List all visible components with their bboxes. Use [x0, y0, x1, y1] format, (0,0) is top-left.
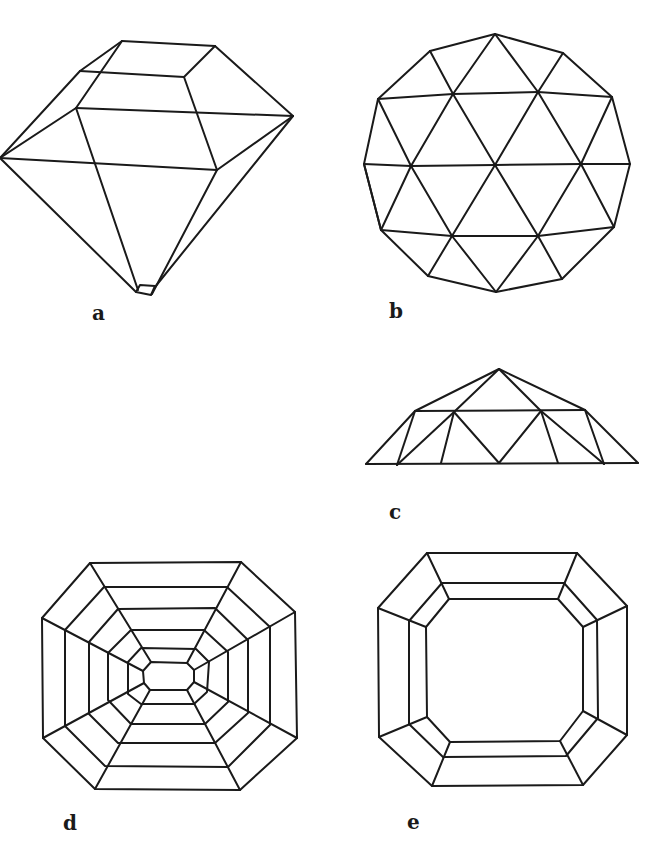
- panel-label-e: e: [407, 812, 420, 832]
- panel-label-c: c: [389, 502, 401, 522]
- panel-label-a: a: [92, 303, 105, 323]
- panel-c-rose-side-view: [366, 369, 638, 465]
- panel-d-step-cut: [42, 562, 297, 790]
- panel-e-emerald-cut: [378, 553, 627, 786]
- panel-b-round-top-view: [364, 34, 630, 292]
- panel-label-b: b: [389, 301, 403, 321]
- panel-label-d: d: [63, 813, 77, 833]
- gem-cut-diagram-canvas: [0, 0, 669, 858]
- panel-a-brilliant-perspective: [0, 41, 293, 295]
